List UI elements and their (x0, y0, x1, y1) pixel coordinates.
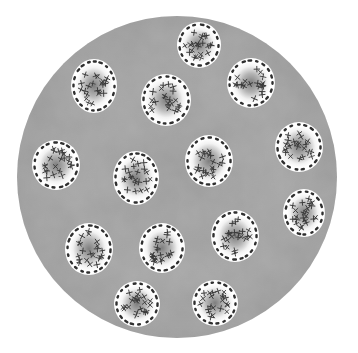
cell-center-shade (189, 139, 229, 183)
figure-canvas (0, 0, 358, 353)
membrane-dash (247, 59, 252, 62)
membrane-dash (53, 141, 58, 143)
membrane-dash (163, 122, 167, 125)
membrane-dash (197, 64, 202, 67)
membrane-dash (193, 301, 195, 305)
membrane-dash (165, 75, 169, 78)
membrane-dash (158, 224, 162, 227)
cell-center-shade (118, 285, 156, 323)
membrane-dash (302, 233, 306, 235)
membrane-dash (271, 81, 273, 85)
membrane-dash (186, 159, 188, 163)
membrane-dash (247, 104, 251, 107)
cell-bottom-right (192, 280, 238, 326)
membrane-dash (217, 44, 220, 48)
cell-lower-center-right (211, 210, 259, 262)
membrane-dash (321, 211, 323, 215)
membrane-dash (297, 123, 301, 125)
membrane-dash (91, 109, 95, 112)
membrane-dash (234, 302, 237, 306)
membrane-dash (76, 163, 78, 167)
membrane-dash (86, 271, 90, 274)
membrane-dash (232, 258, 237, 261)
membrane-dash (229, 159, 231, 163)
membrane-dash (72, 83, 74, 87)
membrane-dash (88, 224, 93, 227)
membrane-dash (155, 178, 158, 182)
microscope-field-figure (0, 0, 358, 353)
membrane-dash (114, 174, 117, 178)
membrane-dash (255, 234, 257, 238)
cell-bottom-left (114, 281, 160, 327)
cell-top (177, 22, 221, 68)
membrane-dash (135, 152, 140, 155)
cell-mid-left (32, 140, 80, 190)
cell-upper-middle (141, 74, 191, 126)
membrane-dash (319, 145, 321, 149)
cell-center-shade (75, 63, 113, 109)
membrane-dash (156, 302, 159, 307)
cell-mid-right (275, 122, 323, 172)
membrane-dash (207, 136, 212, 139)
cell-upper-right (227, 58, 275, 108)
cell-center (185, 135, 233, 187)
cell-center-shade (143, 227, 181, 269)
cell-lower-left (65, 223, 113, 275)
membrane-dash (93, 60, 97, 63)
membrane-dash (66, 245, 69, 249)
cell-right-lower (283, 189, 325, 237)
cell-upper-left (71, 59, 117, 113)
membrane-dash (233, 211, 237, 213)
membrane-dash (109, 248, 112, 253)
membrane-dash (181, 247, 184, 252)
membrane-dash (113, 85, 115, 89)
cell-center-left (113, 151, 159, 205)
membrane-dash (115, 301, 118, 306)
cell-lower-middle (139, 223, 185, 273)
membrane-dash (142, 96, 145, 101)
membrane-dash (133, 201, 137, 203)
membrane-dash (187, 99, 190, 103)
membrane-dash (212, 233, 215, 238)
membrane-dash (206, 183, 211, 186)
